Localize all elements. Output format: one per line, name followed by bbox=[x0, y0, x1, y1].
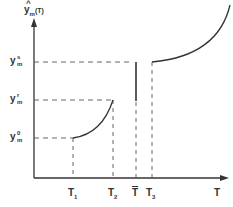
tick-label-T2: T2 bbox=[108, 188, 117, 200]
x-axis-arrow-icon bbox=[220, 175, 229, 181]
y-axis-title-arg: (T) bbox=[35, 7, 44, 14]
tick-label-T1: T1 bbox=[68, 188, 77, 200]
tick-sub: 2 bbox=[114, 194, 117, 200]
tick-base: y bbox=[10, 93, 16, 104]
tick-label-y-m-0: y 0 m bbox=[10, 132, 16, 142]
tick-sub: m bbox=[17, 99, 22, 105]
x-axis-title-text: T bbox=[214, 187, 220, 198]
y-axis-arrow-icon bbox=[31, 18, 37, 27]
tick-sup: s bbox=[17, 54, 20, 60]
tick-base: T bbox=[132, 187, 138, 198]
diagram-canvas bbox=[0, 0, 233, 207]
tick-label-T3: T3 bbox=[146, 188, 155, 200]
hat-mark: ^ bbox=[26, 0, 31, 8]
y-axis-title: ^ ym(T) bbox=[24, 5, 44, 17]
tick-base: y bbox=[10, 55, 16, 66]
x-axis-title: T bbox=[214, 188, 220, 198]
tick-sub: 3 bbox=[152, 194, 155, 200]
tick-base: y bbox=[10, 131, 16, 142]
curve-segment-1 bbox=[73, 100, 113, 138]
curve-segment-2 bbox=[152, 5, 230, 62]
tick-sup: 0 bbox=[17, 130, 20, 136]
tick-sub: m bbox=[17, 137, 22, 143]
tick-sup: r bbox=[17, 92, 19, 98]
tick-sub: 1 bbox=[74, 194, 77, 200]
tick-label-y-m-s: y s m bbox=[10, 56, 16, 66]
tick-label-y-m-r: y r m bbox=[10, 94, 16, 104]
tick-sub: m bbox=[17, 61, 22, 67]
tick-label-Tbar: T bbox=[132, 188, 138, 198]
